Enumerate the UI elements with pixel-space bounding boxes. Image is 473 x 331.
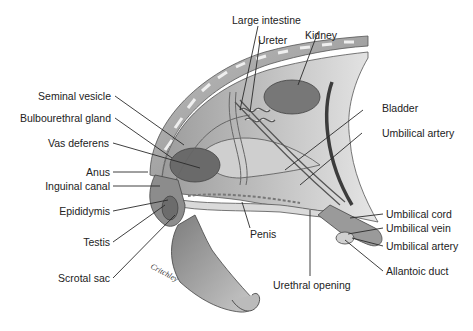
label-seminal-vesicle: Seminal vesicle (38, 90, 111, 102)
label-ureter: Ureter (258, 34, 288, 46)
testis-shape (162, 196, 178, 220)
label-penis: Penis (250, 228, 276, 240)
label-testis: Testis (83, 236, 110, 248)
label-umbilical-artery-lower: Umbilical artery (386, 240, 459, 252)
body-illustration: Critchley (149, 36, 382, 312)
label-bladder: Bladder (382, 102, 419, 114)
label-vas-deferens: Vas deferens (48, 137, 109, 149)
labels-left: Seminal vesicle Bulbourethral gland Vas … (20, 90, 111, 284)
label-inguinal-canal: Inguinal canal (45, 180, 110, 192)
kidney-shape (264, 80, 320, 114)
urogenital-diagram: Critchley Seminal vesicle Bulbourethral … (0, 0, 473, 331)
label-epididymis: Epididymis (59, 205, 110, 217)
label-large-intestine: Large intestine (232, 14, 301, 26)
label-urethral-opening: Urethral opening (273, 279, 351, 291)
label-kidney: Kidney (305, 29, 338, 41)
labels-right: Bladder Umbilical artery Umbilical cord … (382, 102, 459, 277)
label-umbilical-vein: Umbilical vein (386, 222, 451, 234)
label-anus: Anus (86, 166, 110, 178)
label-umbilical-cord: Umbilical cord (386, 208, 452, 220)
label-umbilical-artery-upper: Umbilical artery (382, 127, 455, 139)
label-scrotal-sac: Scrotal sac (58, 272, 110, 284)
label-bulbourethral-gland: Bulbourethral gland (20, 112, 111, 124)
label-allantoic-duct: Allantoic duct (386, 265, 449, 277)
